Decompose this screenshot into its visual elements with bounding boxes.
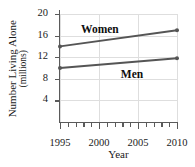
x-tick-label: 2000 (89, 137, 110, 148)
data-point-marker (175, 28, 179, 32)
chart-figure: Number Living Alone (millions) 48121620 … (0, 0, 195, 167)
y-tick-label: 16 (38, 29, 49, 40)
y-tick-label: 12 (38, 50, 49, 61)
y-tick-label: 4 (43, 93, 48, 104)
data-point-marker (175, 56, 179, 60)
x-tick-major: 2010 (177, 122, 178, 129)
x-tick-major: 2005 (138, 122, 139, 129)
y-axis-title: Number Living Alone (millions) (0, 0, 36, 138)
x-tick-minor (122, 122, 123, 127)
x-tick-major: 1995 (60, 122, 61, 129)
x-tick-minor (169, 122, 170, 127)
x-tick-minor (107, 122, 108, 127)
plot-area: 48121620 1995200020052010 WomenMen (60, 14, 177, 122)
y-tick-label: 20 (38, 7, 49, 18)
series-line-men (60, 58, 177, 68)
x-tick-minor (130, 122, 131, 127)
x-tick-minor (115, 122, 116, 127)
series-label-women: Women (81, 23, 119, 35)
y-tick-label: 8 (43, 72, 48, 83)
x-tick-minor (146, 122, 147, 127)
y-axis-title-line2: (millions) (19, 20, 29, 117)
series-label-men: Men (121, 68, 143, 80)
x-tick-label: 2010 (167, 137, 188, 148)
x-tick-minor (91, 122, 92, 127)
data-point-marker (58, 44, 62, 48)
x-tick-label: 2005 (128, 137, 149, 148)
x-tick-minor (83, 122, 84, 127)
x-tick-minor (154, 122, 155, 127)
x-axis-title: Year (60, 148, 177, 160)
x-tick-label: 1995 (50, 137, 71, 148)
data-point-marker (58, 66, 62, 70)
x-tick-major: 2000 (99, 122, 100, 129)
x-tick-minor (161, 122, 162, 127)
x-tick-minor (76, 122, 77, 127)
x-tick-minor (68, 122, 69, 127)
